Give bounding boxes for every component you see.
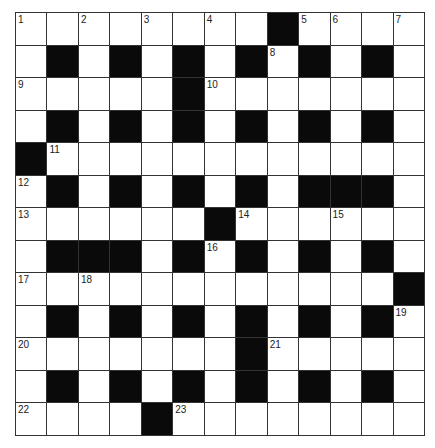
- answer-cell[interactable]: 22: [16, 403, 46, 435]
- answer-cell[interactable]: [268, 403, 298, 435]
- answer-cell[interactable]: [331, 306, 361, 338]
- answer-cell[interactable]: [268, 273, 298, 305]
- answer-cell[interactable]: [205, 111, 235, 143]
- answer-cell[interactable]: [79, 176, 109, 208]
- answer-cell[interactable]: [299, 78, 329, 110]
- answer-cell[interactable]: 10: [205, 78, 235, 110]
- answer-cell[interactable]: [331, 241, 361, 273]
- answer-cell[interactable]: [173, 273, 203, 305]
- answer-cell[interactable]: [331, 273, 361, 305]
- answer-cell[interactable]: 1: [16, 13, 46, 45]
- answer-cell[interactable]: [299, 403, 329, 435]
- answer-cell[interactable]: [47, 13, 77, 45]
- answer-cell[interactable]: [268, 241, 298, 273]
- answer-cell[interactable]: [142, 241, 172, 273]
- answer-cell[interactable]: [394, 371, 424, 403]
- answer-cell[interactable]: [142, 176, 172, 208]
- answer-cell[interactable]: [205, 176, 235, 208]
- answer-cell[interactable]: [142, 208, 172, 240]
- answer-cell[interactable]: [362, 403, 392, 435]
- answer-cell[interactable]: [47, 403, 77, 435]
- answer-cell[interactable]: [268, 306, 298, 338]
- answer-cell[interactable]: [268, 176, 298, 208]
- answer-cell[interactable]: [268, 208, 298, 240]
- answer-cell[interactable]: [268, 78, 298, 110]
- answer-cell[interactable]: 13: [16, 208, 46, 240]
- answer-cell[interactable]: [110, 13, 140, 45]
- answer-cell[interactable]: 11: [47, 143, 77, 175]
- answer-cell[interactable]: [79, 46, 109, 78]
- answer-cell[interactable]: [394, 78, 424, 110]
- answer-cell[interactable]: [362, 338, 392, 370]
- answer-cell[interactable]: [268, 111, 298, 143]
- answer-cell[interactable]: 12: [16, 176, 46, 208]
- answer-cell[interactable]: [394, 46, 424, 78]
- answer-cell[interactable]: [394, 143, 424, 175]
- answer-cell[interactable]: [236, 13, 266, 45]
- answer-cell[interactable]: [394, 241, 424, 273]
- answer-cell[interactable]: [205, 46, 235, 78]
- answer-cell[interactable]: [47, 208, 77, 240]
- answer-cell[interactable]: [110, 273, 140, 305]
- answer-cell[interactable]: 17: [16, 273, 46, 305]
- answer-cell[interactable]: [205, 403, 235, 435]
- answer-cell[interactable]: [268, 371, 298, 403]
- answer-cell[interactable]: [173, 338, 203, 370]
- answer-cell[interactable]: [362, 273, 392, 305]
- answer-cell[interactable]: [16, 306, 46, 338]
- answer-cell[interactable]: [173, 208, 203, 240]
- answer-cell[interactable]: [205, 338, 235, 370]
- answer-cell[interactable]: 6: [331, 13, 361, 45]
- answer-cell[interactable]: [79, 143, 109, 175]
- answer-cell[interactable]: 8: [268, 46, 298, 78]
- answer-cell[interactable]: 5: [299, 13, 329, 45]
- answer-cell[interactable]: [110, 208, 140, 240]
- answer-cell[interactable]: [205, 371, 235, 403]
- answer-cell[interactable]: [16, 46, 46, 78]
- answer-cell[interactable]: [299, 208, 329, 240]
- answer-cell[interactable]: [79, 403, 109, 435]
- answer-cell[interactable]: [394, 208, 424, 240]
- answer-cell[interactable]: [47, 78, 77, 110]
- answer-cell[interactable]: [142, 143, 172, 175]
- answer-cell[interactable]: [268, 143, 298, 175]
- answer-cell[interactable]: 23: [173, 403, 203, 435]
- answer-cell[interactable]: [205, 273, 235, 305]
- answer-cell[interactable]: [79, 338, 109, 370]
- answer-cell[interactable]: [142, 338, 172, 370]
- answer-cell[interactable]: [142, 78, 172, 110]
- answer-cell[interactable]: [110, 338, 140, 370]
- answer-cell[interactable]: 18: [79, 273, 109, 305]
- answer-cell[interactable]: [142, 306, 172, 338]
- answer-cell[interactable]: [79, 208, 109, 240]
- answer-cell[interactable]: [394, 403, 424, 435]
- answer-cell[interactable]: [110, 78, 140, 110]
- answer-cell[interactable]: [299, 273, 329, 305]
- answer-cell[interactable]: [236, 273, 266, 305]
- answer-cell[interactable]: [331, 143, 361, 175]
- answer-cell[interactable]: [205, 143, 235, 175]
- answer-cell[interactable]: [47, 338, 77, 370]
- answer-cell[interactable]: [79, 111, 109, 143]
- answer-cell[interactable]: 16: [205, 241, 235, 273]
- answer-cell[interactable]: [236, 78, 266, 110]
- answer-cell[interactable]: [79, 371, 109, 403]
- answer-cell[interactable]: [79, 78, 109, 110]
- answer-cell[interactable]: 2: [79, 13, 109, 45]
- answer-cell[interactable]: 15: [331, 208, 361, 240]
- answer-cell[interactable]: [142, 371, 172, 403]
- answer-cell[interactable]: [362, 143, 392, 175]
- answer-cell[interactable]: [236, 403, 266, 435]
- answer-cell[interactable]: 3: [142, 13, 172, 45]
- answer-cell[interactable]: 7: [394, 13, 424, 45]
- answer-cell[interactable]: [394, 338, 424, 370]
- answer-cell[interactable]: [331, 338, 361, 370]
- answer-cell[interactable]: 4: [205, 13, 235, 45]
- answer-cell[interactable]: [16, 371, 46, 403]
- answer-cell[interactable]: [16, 241, 46, 273]
- answer-cell[interactable]: [16, 111, 46, 143]
- answer-cell[interactable]: [205, 306, 235, 338]
- answer-cell[interactable]: [110, 403, 140, 435]
- answer-cell[interactable]: 9: [16, 78, 46, 110]
- answer-cell[interactable]: 20: [16, 338, 46, 370]
